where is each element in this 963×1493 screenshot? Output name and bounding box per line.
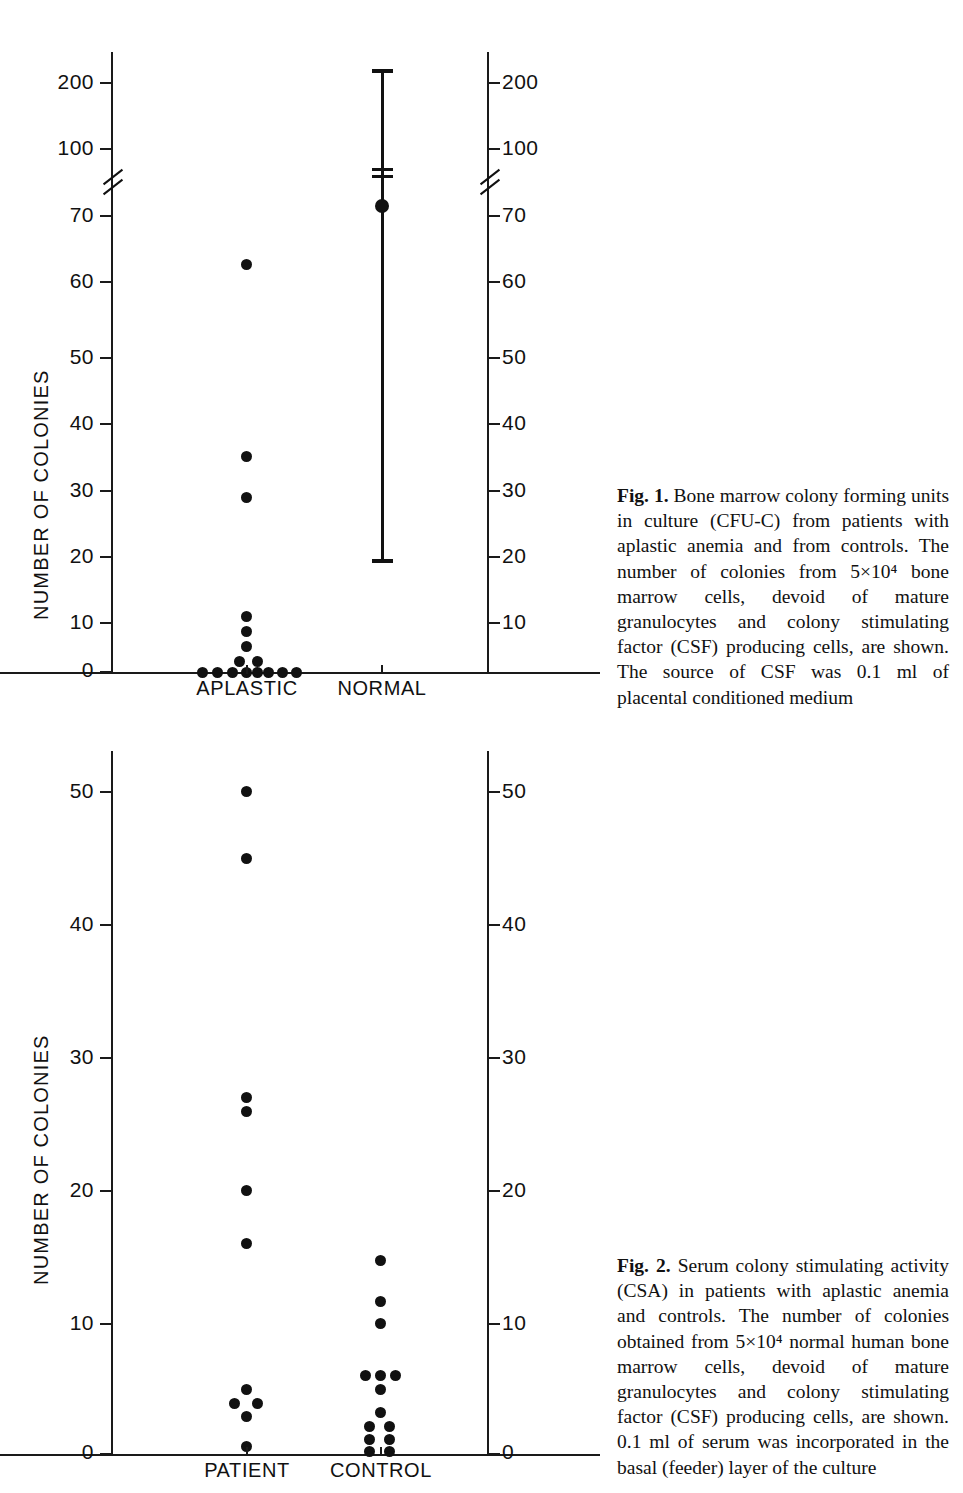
fig1-right-ticklabel-20: 20 xyxy=(502,545,526,566)
fig1-left-tick-50 xyxy=(100,357,111,359)
fig2-control-dot-7c xyxy=(390,1370,401,1381)
fig1-right-tick-60 xyxy=(489,281,500,283)
fig1-right-tick-200 xyxy=(489,82,500,84)
fig1-aplastic-dot-35 xyxy=(241,451,252,462)
fig1-right-tick-100 xyxy=(489,148,500,150)
fig2-control-dot-3a xyxy=(364,1421,375,1432)
fig2-y-axis-title: NUMBER OF COLONIES xyxy=(30,1034,53,1285)
fig2-control-dot-1b xyxy=(384,1446,395,1457)
fig1-right-ticklabel-40: 40 xyxy=(502,412,526,433)
fig1-right-ticklabel-10: 10 xyxy=(502,611,526,632)
fig1-left-tick-200 xyxy=(100,82,111,84)
figure-2-caption: Fig. 2. Serum colony stimulating activit… xyxy=(617,1253,949,1480)
fig1-left-tick-70 xyxy=(100,215,111,217)
fig2-patient-dot-4a xyxy=(229,1398,240,1409)
fig2-left-tick-10 xyxy=(100,1323,111,1325)
fig1-right-ticklabel-60: 60 xyxy=(502,270,526,291)
fig1-group-label-normal: NORMAL xyxy=(307,677,457,700)
fig1-left-tick-10 xyxy=(100,622,111,624)
fig2-patient-dot-3 xyxy=(241,1411,252,1422)
fig1-normal-mean-marker-upper xyxy=(372,168,393,171)
fig2-group-label-patient: PATIENT xyxy=(172,1459,322,1482)
fig1-left-ticklabel-50: 50 xyxy=(20,346,94,367)
fig2-control-dot-2b xyxy=(384,1434,395,1445)
fig2-left-axis xyxy=(111,751,113,1455)
figure-1-plot: 200 100 70 60 50 40 30 20 10 0 200 100 xyxy=(0,0,600,720)
fig2-left-ticklabel-10: 10 xyxy=(20,1312,94,1333)
figure-1-caption-label: Fig. 1. xyxy=(617,485,669,506)
fig1-left-ticklabel-60: 60 xyxy=(20,270,94,291)
fig2-right-ticklabel-40: 40 xyxy=(502,913,526,934)
fig1-right-tick-30 xyxy=(489,490,500,492)
fig1-xtick-normal xyxy=(381,665,383,674)
fig2-left-tick-50 xyxy=(100,791,111,793)
figure-page: 200 100 70 60 50 40 30 20 10 0 200 100 xyxy=(0,0,963,1493)
fig2-control-dot-7a xyxy=(360,1370,371,1381)
fig2-control-dot-1a xyxy=(364,1446,375,1457)
fig2-patient-dot-4b xyxy=(252,1398,263,1409)
fig1-left-ticklabel-70: 70 xyxy=(20,204,94,225)
fig1-left-tick-0 xyxy=(100,671,111,673)
fig1-left-ticklabel-100: 100 xyxy=(20,137,94,158)
fig2-right-tick-40 xyxy=(489,924,500,926)
fig1-right-tick-40 xyxy=(489,423,500,425)
fig1-aplastic-dot-2a xyxy=(234,656,245,667)
fig1-normal-range-cap-bottom xyxy=(372,559,393,563)
fig2-left-ticklabel-0: 0 xyxy=(20,1441,94,1462)
figure-1-caption-text: Bone marrow colony forming units in cult… xyxy=(617,485,949,708)
fig2-control-dot-13 xyxy=(375,1296,386,1307)
fig1-aplastic-dot-6 xyxy=(241,641,252,652)
fig1-left-ticklabel-0: 0 xyxy=(20,659,94,680)
fig1-right-tick-50 xyxy=(489,357,500,359)
fig1-y-axis-title: NUMBER OF COLONIES xyxy=(30,369,53,620)
fig2-right-ticklabel-20: 20 xyxy=(502,1179,526,1200)
fig2-xtick-control xyxy=(380,1447,382,1456)
fig2-patient-dot-5 xyxy=(241,1384,252,1395)
fig2-control-dot-3b xyxy=(384,1421,395,1432)
fig2-xtick-patient xyxy=(246,1447,248,1456)
fig1-aplastic-dot-9 xyxy=(241,611,252,622)
fig1-left-ticklabel-200: 200 xyxy=(20,71,94,92)
fig2-right-axis xyxy=(487,751,489,1455)
fig2-right-tick-20 xyxy=(489,1190,500,1192)
fig1-right-ticklabel-100: 100 xyxy=(502,137,539,158)
fig1-left-tick-20 xyxy=(100,556,111,558)
fig2-right-ticklabel-50: 50 xyxy=(502,780,526,801)
fig1-left-tick-60 xyxy=(100,281,111,283)
fig1-group-label-aplastic: APLASTIC xyxy=(172,677,322,700)
fig2-left-tick-30 xyxy=(100,1057,111,1059)
fig2-control-dot-15 xyxy=(375,1255,386,1266)
fig1-left-tick-40 xyxy=(100,423,111,425)
fig1-aplastic-dot-2b xyxy=(252,656,263,667)
figure-2: 50 40 30 20 10 0 50 40 30 20 10 0 NUMBER… xyxy=(0,740,963,1493)
fig1-aplastic-dot-27 xyxy=(241,492,252,503)
fig2-right-tick-30 xyxy=(489,1057,500,1059)
fig2-left-tick-0 xyxy=(100,1453,111,1455)
fig2-right-tick-0 xyxy=(489,1453,500,1455)
fig2-left-ticklabel-50: 50 xyxy=(20,780,94,801)
fig2-left-tick-40 xyxy=(100,924,111,926)
figure-2-plot: 50 40 30 20 10 0 50 40 30 20 10 0 NUMBER… xyxy=(0,740,600,1493)
fig1-right-tick-20 xyxy=(489,556,500,558)
fig2-control-dot-6 xyxy=(375,1384,386,1395)
fig1-aplastic-dot-7 xyxy=(241,626,252,637)
fig1-normal-mean-marker-lower xyxy=(372,175,393,178)
fig2-left-tick-20 xyxy=(100,1190,111,1192)
fig1-aplastic-dot-63 xyxy=(241,259,252,270)
fig2-left-ticklabel-40: 40 xyxy=(20,913,94,934)
fig1-right-ticklabel-200: 200 xyxy=(502,71,539,92)
fig2-control-dot-11 xyxy=(375,1318,386,1329)
fig2-control-dot-7b xyxy=(375,1370,386,1381)
figure-2-caption-text: Serum colony stimulating activity (CSA) … xyxy=(617,1255,949,1478)
fig1-left-axis xyxy=(111,52,113,674)
fig1-right-tick-70 xyxy=(489,215,500,217)
fig2-right-tick-50 xyxy=(489,791,500,793)
fig1-right-ticklabel-50: 50 xyxy=(502,346,526,367)
fig2-patient-dot-20 xyxy=(241,1185,252,1196)
fig2-control-dot-2a xyxy=(364,1434,375,1445)
fig1-normal-mean-dot xyxy=(375,199,389,213)
fig1-right-axis xyxy=(487,52,489,674)
fig2-group-label-control: CONTROL xyxy=(306,1459,456,1482)
figure-1: 200 100 70 60 50 40 30 20 10 0 200 100 xyxy=(0,0,963,720)
fig2-patient-dot-16 xyxy=(241,1238,252,1249)
